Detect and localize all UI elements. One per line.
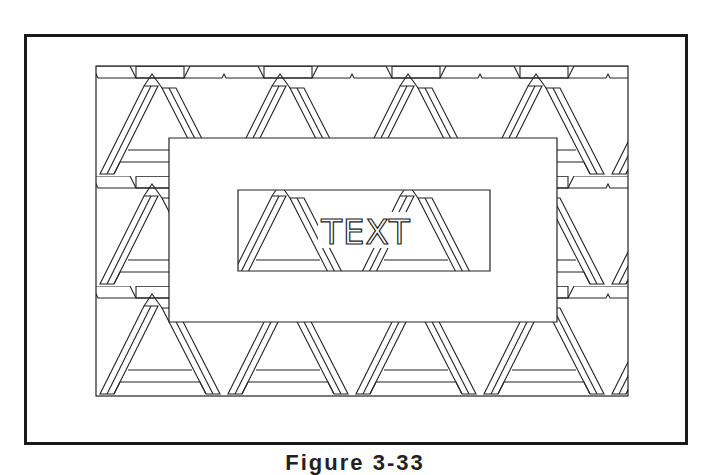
figure-caption: Figure 3-33 [0, 452, 710, 474]
center-label: TEXT [320, 212, 411, 252]
